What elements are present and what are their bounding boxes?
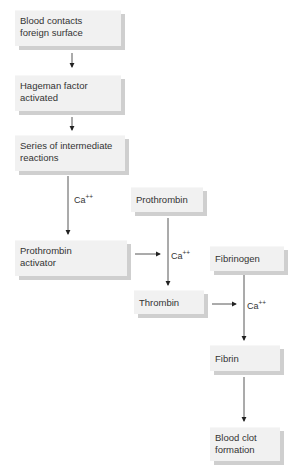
node-label: formation [215,444,275,456]
calcium-label: Ca++ [74,193,93,205]
node-series: Series of intermediate reactions [15,135,125,171]
calcium-label: Ca++ [171,249,190,261]
node-label: foreign surface [20,27,116,39]
calcium-label: Ca++ [247,299,266,311]
node-prothrombin-activator: Prothrombin activator [15,240,127,276]
node-label: Fibrinogen [215,253,279,265]
node-label: Prothrombin [136,194,198,206]
node-blood-contacts: Blood contacts foreign surface [15,10,121,46]
node-label: Thrombin [139,297,199,309]
node-hageman: Hageman factor activated [15,75,121,111]
node-thrombin: Thrombin [134,290,204,314]
node-prothrombin: Prothrombin [131,187,203,212]
node-label: Fibrin [215,353,275,365]
node-label: Prothrombin [20,245,122,257]
node-label: activator [20,257,122,269]
node-label: activated [20,92,116,104]
node-fibrin: Fibrin [210,345,280,371]
node-label: Blood contacts [20,15,116,27]
node-label: Series of intermediate [20,140,120,152]
node-label: Blood clot [215,432,275,444]
node-fibrinogen: Fibrinogen [210,246,284,271]
arrows-layer [0,0,297,471]
node-label: Hageman factor [20,80,116,92]
node-blood-clot: Blood clot formation [210,427,280,461]
node-label: reactions [20,152,120,164]
